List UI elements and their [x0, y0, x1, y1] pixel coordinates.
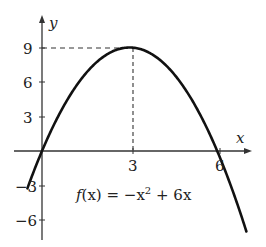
parabola-chart: y x 9 6 3 −3 −6 3 6 f(x) = −x2 + 6x — [0, 0, 266, 247]
y-tick-label-neg3: −3 — [15, 178, 37, 196]
y-tick-label-3: 3 — [23, 109, 33, 127]
x-axis-label: x — [236, 129, 245, 147]
function-label: f(x) = −x2 + 6x — [75, 185, 192, 204]
x-axis-arrow-icon — [244, 148, 252, 154]
y-tick-label-neg6: −6 — [15, 212, 37, 230]
y-tick-label-6: 6 — [23, 74, 33, 92]
x-tick-label-6: 6 — [215, 157, 225, 175]
y-axis-label: y — [48, 14, 58, 32]
y-tick-label-9: 9 — [23, 40, 33, 58]
y-axis-arrow-icon — [39, 15, 45, 23]
x-tick-label-3: 3 — [128, 157, 138, 175]
